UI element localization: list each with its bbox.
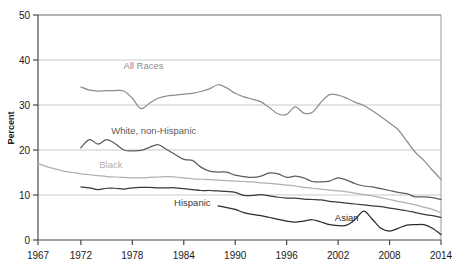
series-label-all-races: All Races [123,60,163,71]
y-tick-label-10: 10 [19,190,31,201]
x-tick-label-2014: 2014 [430,250,453,261]
x-tick-label-2008: 2008 [378,250,401,261]
chart-container: 01020304050 1967197219781984199019962002… [0,0,461,272]
series-label-white-non-hispanic: White, non-Hispanic [111,125,196,136]
line-chart: 01020304050 1967197219781984199019962002… [0,0,461,272]
y-axis-title: Percent [6,111,16,144]
x-tick-label-1967: 1967 [27,250,50,261]
y-tick-label-30: 30 [19,100,31,111]
x-tick-label-1996: 1996 [276,250,299,261]
y-tick-label-50: 50 [19,10,31,21]
x-tick-label-1990: 1990 [224,250,247,261]
x-tick-label-1972: 1972 [70,250,93,261]
y-tick-label-20: 20 [19,145,31,156]
y-tick-label-40: 40 [19,55,31,66]
x-tick-label-1984: 1984 [173,250,196,261]
y-tick-label-0: 0 [24,235,30,246]
x-tick-label-2002: 2002 [327,250,350,261]
x-tick-label-1978: 1978 [121,250,144,261]
series-label-black: Black [99,159,122,170]
series-label-asian: Asian [335,212,359,223]
series-label-hispanic: Hispanic [174,197,211,208]
